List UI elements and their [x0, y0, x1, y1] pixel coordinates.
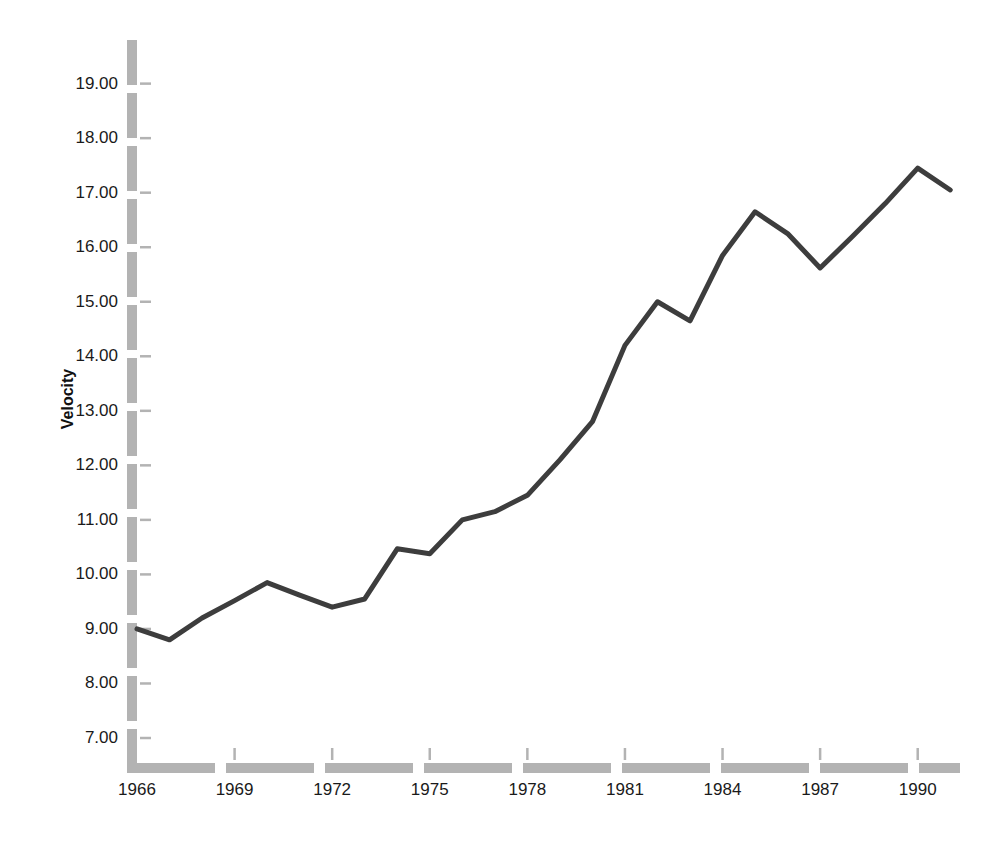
x-axis-tick-marks: [235, 748, 918, 760]
y-tick-label: 15.00: [40, 293, 118, 310]
x-tick-label: 1990: [873, 780, 963, 800]
y-axis-tick-marks: [140, 84, 151, 738]
velocity-line-chart: Velocity 7.008.009.0010.0011.0012.0013.0…: [0, 0, 987, 848]
y-tick-label: 13.00: [40, 402, 118, 419]
y-tick-label: 18.00: [40, 129, 118, 146]
x-tick-label: 1975: [385, 780, 475, 800]
data-series-group: [137, 168, 950, 640]
x-tick-label: 1978: [482, 780, 572, 800]
y-tick-label: 17.00: [40, 184, 118, 201]
y-tick-label: 12.00: [40, 456, 118, 473]
y-tick-label: 10.00: [40, 565, 118, 582]
x-tick-label: 1981: [580, 780, 670, 800]
x-tick-label: 1984: [678, 780, 768, 800]
y-axis-tick-labels: 7.008.009.0010.0011.0012.0013.0014.0015.…: [40, 0, 118, 848]
x-tick-label: 1987: [775, 780, 865, 800]
y-tick-label: 19.00: [40, 75, 118, 92]
x-tick-label: 1966: [92, 780, 182, 800]
x-tick-label: 1969: [190, 780, 280, 800]
y-tick-label: 9.00: [40, 620, 118, 637]
y-tick-label: 16.00: [40, 238, 118, 255]
data-line-velocity: [137, 168, 950, 640]
y-tick-label: 8.00: [40, 674, 118, 691]
y-tick-label: 11.00: [40, 511, 118, 528]
y-tick-label: 14.00: [40, 347, 118, 364]
plot-area: [0, 0, 987, 848]
y-tick-label: 7.00: [40, 729, 118, 746]
x-tick-label: 1972: [287, 780, 377, 800]
